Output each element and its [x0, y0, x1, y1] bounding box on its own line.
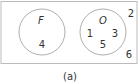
caption: (a) [63, 71, 77, 82]
set-o-element: 1 [87, 28, 93, 39]
set-o-element: 3 [112, 28, 118, 39]
venn-diagram: F 4 O 1 3 5 2 6 (a) [0, 0, 140, 83]
set-o-element: 5 [100, 39, 106, 50]
set-f-label: F [38, 15, 44, 26]
universe-element: 2 [128, 8, 134, 19]
universe-element: 6 [126, 49, 132, 60]
set-o-label: O [99, 15, 107, 26]
set-f-element: 4 [39, 39, 45, 50]
